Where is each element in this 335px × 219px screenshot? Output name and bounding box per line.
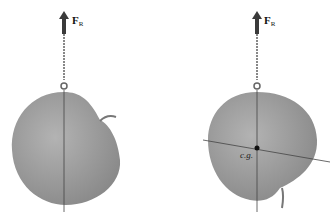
figure-canvas	[0, 0, 335, 219]
right-apple-assembly	[203, 11, 330, 212]
apple-left	[12, 92, 120, 205]
apple-right	[208, 92, 317, 201]
center-of-gravity-label: c.g.	[240, 150, 253, 160]
force-arrow-head-left	[59, 11, 69, 19]
force-label-right: FR	[264, 14, 275, 28]
force-arrow-shaft-right	[255, 18, 259, 34]
left-apple-assembly	[12, 11, 120, 212]
hook-left	[61, 83, 67, 89]
force-arrow-shaft-left	[62, 18, 66, 34]
hook-right	[254, 83, 260, 89]
stem-right	[282, 188, 283, 208]
center-of-gravity-dot	[255, 146, 260, 151]
force-label-left: FR	[72, 14, 83, 28]
stem-left	[100, 116, 116, 121]
force-arrow-head-right	[252, 11, 262, 19]
